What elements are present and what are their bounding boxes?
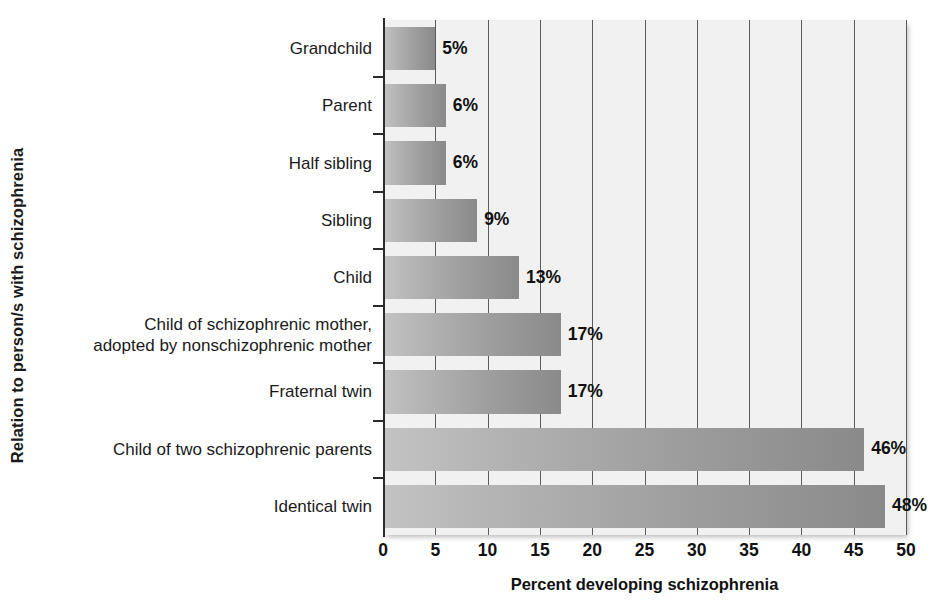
bar-value-label: 6% <box>453 95 478 116</box>
category-label: Parent <box>40 95 372 116</box>
bar[interactable] <box>383 370 561 413</box>
bar[interactable] <box>383 199 477 242</box>
bar-value-label: 6% <box>453 152 478 173</box>
bar[interactable] <box>383 428 864 471</box>
category-label: Fraternal twin <box>40 381 372 402</box>
x-axis-tick-label: 20 <box>582 540 601 561</box>
bar-value-label: 9% <box>484 209 509 230</box>
y-axis-tick <box>373 76 385 78</box>
y-axis-tick <box>373 362 385 364</box>
x-axis-tick-label: 30 <box>687 540 706 561</box>
category-label: Grandchild <box>40 38 372 59</box>
x-axis-tick-labels: 05101520253035404550 <box>383 540 906 564</box>
schizophrenia-risk-bar-chart: Relation to person/s with schizophrenia … <box>0 0 938 611</box>
bar-value-label: 17% <box>568 324 603 345</box>
y-axis-tick <box>373 477 385 479</box>
bar[interactable] <box>383 141 446 184</box>
category-label: Child <box>40 267 372 288</box>
y-axis-tick <box>373 305 385 307</box>
x-axis-tick-label: 15 <box>530 540 549 561</box>
bar-value-label: 48% <box>892 495 927 516</box>
x-axis-tick-label: 0 <box>378 540 388 561</box>
bar[interactable] <box>383 84 446 127</box>
y-axis-tick <box>373 248 385 250</box>
category-label: Identical twin <box>40 496 372 517</box>
category-label: Child of two schizophrenic parents <box>40 439 372 460</box>
category-label: Sibling <box>40 210 372 231</box>
category-label: Half sibling <box>40 153 372 174</box>
x-axis-tick-label: 25 <box>635 540 654 561</box>
bar-value-label: 17% <box>568 381 603 402</box>
x-axis-title: Percent developing schizophrenia <box>383 575 906 594</box>
bar-value-label: 46% <box>871 438 906 459</box>
y-axis-tick <box>373 420 385 422</box>
bar[interactable] <box>383 256 519 299</box>
bar[interactable] <box>383 485 885 528</box>
category-label: Child of schizophrenic mother, adopted b… <box>40 314 372 356</box>
x-axis-tick-label: 35 <box>739 540 758 561</box>
x-axis-tick-label: 50 <box>896 540 915 561</box>
y-axis-tick <box>373 191 385 193</box>
bar-value-label: 5% <box>442 38 467 59</box>
x-axis-tick-label: 45 <box>844 540 863 561</box>
y-axis-title: Relation to person/s with schizophrenia <box>0 0 34 611</box>
bar-value-label: 13% <box>526 267 561 288</box>
x-axis-tick-label: 40 <box>792 540 811 561</box>
x-axis-tick-label: 10 <box>478 540 497 561</box>
x-axis-tick-label: 5 <box>430 540 440 561</box>
y-axis-line <box>383 18 385 537</box>
y-axis-tick <box>373 133 385 135</box>
bar[interactable] <box>383 27 435 70</box>
category-axis-labels: GrandchildParentHalf siblingSiblingChild… <box>40 20 372 535</box>
bar[interactable] <box>383 313 561 356</box>
